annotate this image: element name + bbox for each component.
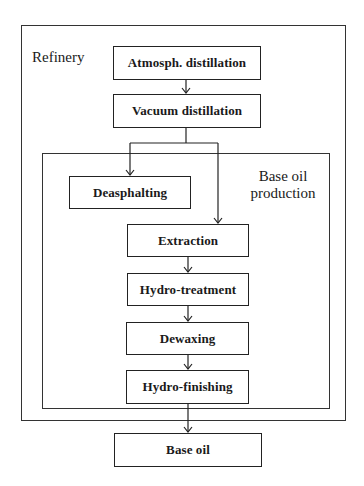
node-extraction: Extraction bbox=[127, 224, 249, 257]
node-atmospheric-distillation: Atmosph. distillation bbox=[113, 46, 261, 80]
node-vacuum-distillation: Vacuum distillation bbox=[113, 94, 261, 128]
node-deasphalting: Deasphalting bbox=[69, 176, 191, 209]
node-dewaxing: Dewaxing bbox=[126, 322, 249, 355]
node-hydro-treatment: Hydro-treatment bbox=[127, 273, 249, 306]
node-hydro-finishing: Hydro-finishing bbox=[126, 370, 249, 404]
node-base-oil: Base oil bbox=[114, 433, 262, 467]
